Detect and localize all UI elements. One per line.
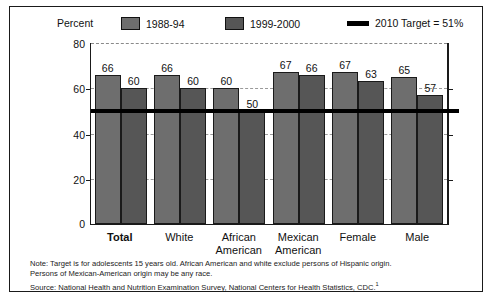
bar-female-1988-94[interactable]: 67 xyxy=(332,72,358,224)
bar-series-container: 66 60 66 60 60 xyxy=(91,43,447,224)
target-line-extension xyxy=(447,109,459,113)
bar-value-male-1988-94: 65 xyxy=(398,64,410,76)
legend-label-1999-2000: 1999-2000 xyxy=(250,18,300,30)
legend-item-1988-94: 1988-94 xyxy=(121,17,185,30)
bar-value-white-1999-2000: 60 xyxy=(187,75,199,87)
y-tick-label-0: 0 xyxy=(79,218,85,230)
x-axis-labels: Total White African American Mexican Ame… xyxy=(90,231,447,256)
chart-frame: Percent 1988-94 1999-2000 2010 Target = … xyxy=(9,6,483,292)
y-tick-label-80: 80 xyxy=(73,38,85,50)
bar-group-african-american: 60 50 xyxy=(210,43,269,224)
x-label-total: Total xyxy=(90,231,150,256)
bar-male-1988-94[interactable]: 65 xyxy=(391,77,417,224)
x-label-male: Male xyxy=(388,231,448,256)
bar-group-total: 66 60 xyxy=(91,43,150,224)
bar-value-total-1988-94: 66 xyxy=(102,62,114,74)
bar-value-white-1988-94: 66 xyxy=(161,62,173,74)
footnote-note-line2: Persons of Mexican-American origin may b… xyxy=(30,269,470,279)
legend-swatch-1988-94 xyxy=(121,17,140,30)
bar-value-male-1999-2000: 57 xyxy=(424,82,436,94)
footnote-source: Source: National Health and Nutrition Ex… xyxy=(30,279,470,293)
target-line-51 xyxy=(91,109,447,113)
bar-value-total-1999-2000: 60 xyxy=(128,75,140,87)
bar-value-female-1988-94: 67 xyxy=(339,59,351,71)
x-label-white: White xyxy=(150,231,210,256)
x-label-female: Female xyxy=(328,231,388,256)
bar-group-female: 67 63 xyxy=(328,43,387,224)
plot-area: 80 60 40 20 0 xyxy=(90,43,447,225)
plot-area-wrapper: 80 60 40 20 0 xyxy=(10,37,482,237)
bar-male-1999-2000[interactable]: 57 xyxy=(417,95,443,224)
bar-total-1988-94[interactable]: 66 xyxy=(95,75,121,224)
bar-mexican-american-1988-94[interactable]: 67 xyxy=(273,72,299,224)
y-axis-unit-label: Percent xyxy=(57,17,93,29)
bar-white-1988-94[interactable]: 66 xyxy=(154,75,180,224)
legend-swatch-target-line xyxy=(347,21,369,26)
bar-female-1999-2000[interactable]: 63 xyxy=(358,81,384,224)
bar-african-american-1999-2000[interactable]: 50 xyxy=(239,111,265,224)
legend-item-1999-2000: 1999-2000 xyxy=(225,17,300,30)
y-tickmark-right-40 xyxy=(448,135,453,136)
chart-legend: Percent 1988-94 1999-2000 2010 Target = … xyxy=(10,15,482,37)
footnote-source-superscript: 1 xyxy=(376,281,379,287)
bar-group-mexican-american: 67 66 xyxy=(269,43,328,224)
legend-label-target: 2010 Target = 51% xyxy=(375,17,463,29)
bar-value-mexican-american-1988-94: 67 xyxy=(280,59,292,71)
footnote-note-line1: Note: Target is for adolescents 15 years… xyxy=(30,259,470,269)
bar-mexican-american-1999-2000[interactable]: 66 xyxy=(299,75,325,224)
bar-value-african-american-1988-94: 60 xyxy=(220,75,232,87)
bar-group-male: 65 57 xyxy=(388,43,447,224)
y-tickmark-right-20 xyxy=(448,180,453,181)
footnote-source-text: Source: National Health and Nutrition Ex… xyxy=(30,283,376,292)
legend-label-1988-94: 1988-94 xyxy=(146,18,185,30)
bar-value-mexican-american-1999-2000: 66 xyxy=(306,62,318,74)
y-tickmark-right-60 xyxy=(448,89,453,90)
x-label-african-american: African American xyxy=(209,231,269,256)
bar-value-female-1999-2000: 63 xyxy=(365,68,377,80)
legend-item-target: 2010 Target = 51% xyxy=(347,17,463,29)
bar-group-white: 66 60 xyxy=(150,43,209,224)
y-tick-label-60: 60 xyxy=(73,83,85,95)
chart-footnotes: Note: Target is for adolescents 15 years… xyxy=(30,259,470,293)
y-tick-label-40: 40 xyxy=(73,129,85,141)
y-tick-label-20: 20 xyxy=(73,174,85,186)
legend-swatch-1999-2000 xyxy=(225,17,244,30)
x-label-mexican-american: Mexican American xyxy=(269,231,329,256)
